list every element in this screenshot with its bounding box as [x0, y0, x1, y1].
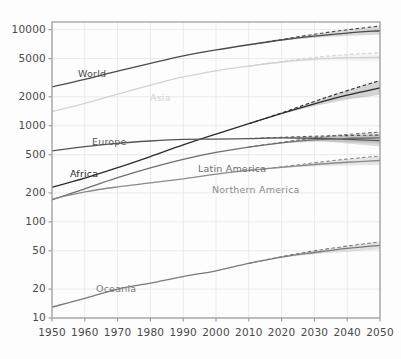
y-axis-tick-label: 10000	[12, 23, 46, 35]
y-axis-tick-label: 20	[32, 282, 46, 294]
x-axis-tick-label: 2050	[360, 326, 400, 338]
series-label-oceania: Oceania	[96, 283, 136, 294]
y-axis-tick-label: 50	[32, 244, 46, 256]
series-label-latin-america: Latin America	[198, 163, 266, 174]
series-label-europe: Europe	[92, 136, 127, 147]
series-label-asia: Asia	[150, 92, 171, 103]
y-axis-tick-label: 2000	[18, 90, 46, 102]
population-projection-chart: 1020501002005001000200050001000019501960…	[0, 0, 401, 359]
series-label-africa: Africa	[70, 168, 98, 179]
chart-canvas	[0, 0, 401, 359]
y-axis-tick-label: 5000	[18, 52, 46, 64]
y-axis-tick-label: 500	[25, 148, 46, 160]
y-axis-tick-label: 10	[32, 311, 46, 323]
y-axis-tick-label: 1000	[18, 119, 46, 131]
y-axis-tick-label: 100	[25, 215, 46, 227]
series-label-world: World	[78, 68, 106, 79]
y-axis-tick-label: 200	[25, 186, 46, 198]
series-label-northern-america: Northern America	[212, 184, 300, 195]
